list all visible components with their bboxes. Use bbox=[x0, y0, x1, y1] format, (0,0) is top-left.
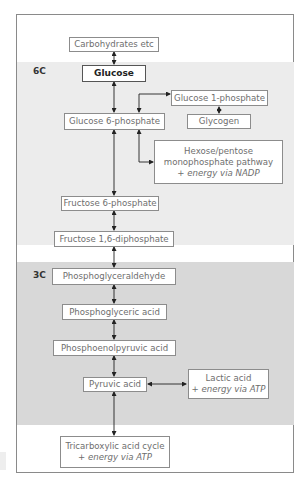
node-label: Phosphoenolpyruvic acid bbox=[54, 343, 175, 354]
page-edge-marker bbox=[0, 452, 6, 470]
node-energy-note: + energy via NADP bbox=[155, 168, 282, 179]
node-glucose: Glucose bbox=[82, 65, 146, 82]
node-lactic-acid: Lactic acid + energy via ATP bbox=[188, 369, 269, 399]
node-glucose-6-phosphate: Glucose 6-phosphate bbox=[64, 113, 165, 130]
section-label-3c: 3C bbox=[33, 270, 46, 280]
node-hexose-pathway: Hexose/pentose monophosphate pathway + e… bbox=[154, 140, 283, 184]
node-label: Phosphoglyceric acid bbox=[63, 307, 166, 318]
node-label: Carbohydrates etc bbox=[70, 39, 158, 50]
node-label-line1: Hexose/pentose bbox=[155, 146, 282, 157]
node-glucose-1-phosphate: Glucose 1-phosphate bbox=[171, 90, 268, 106]
node-label: Fructose 1,6-diphosphate bbox=[55, 234, 173, 245]
node-phosphoglyceraldehyde: Phosphoglyceraldehyde bbox=[52, 268, 176, 285]
node-fructose-16-diphosphate: Fructose 1,6-diphosphate bbox=[54, 231, 174, 247]
node-energy-note: + energy via ATP bbox=[61, 452, 169, 463]
node-label-line2: monophosphate pathway bbox=[155, 157, 282, 168]
section-label-6c: 6C bbox=[33, 66, 46, 76]
node-tca-cycle: Tricarboxylic acid cycle + energy via AT… bbox=[60, 436, 170, 468]
node-phosphoenolpyruvic-acid: Phosphoenolpyruvic acid bbox=[53, 340, 176, 356]
node-label: Glucose bbox=[83, 68, 145, 79]
node-label: Tricarboxylic acid cycle bbox=[61, 441, 169, 452]
node-pyruvic-acid: Pyruvic acid bbox=[83, 377, 147, 392]
node-phosphoglyceric-acid: Phosphoglyceric acid bbox=[62, 304, 167, 320]
node-glycogen: Glycogen bbox=[187, 114, 251, 129]
node-label: Glycogen bbox=[188, 116, 250, 127]
node-label: Fructose 6-phosphate bbox=[62, 198, 158, 209]
node-fructose-6-phosphate: Fructose 6-phosphate bbox=[61, 196, 159, 211]
node-label: Glucose 1-phosphate bbox=[172, 93, 267, 104]
node-carbohydrates: Carbohydrates etc bbox=[69, 37, 159, 52]
node-label: Pyruvic acid bbox=[84, 379, 146, 390]
node-label: Glucose 6-phosphate bbox=[65, 116, 164, 127]
node-label: Phosphoglyceraldehyde bbox=[53, 271, 175, 282]
node-label: Lactic acid bbox=[189, 373, 268, 384]
node-energy-note: + energy via ATP bbox=[189, 384, 268, 395]
